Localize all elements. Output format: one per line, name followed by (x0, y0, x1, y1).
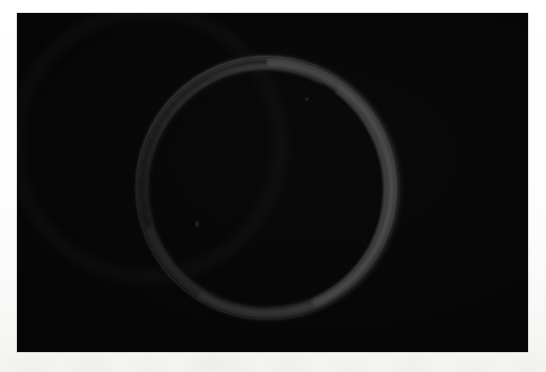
photograph (17, 13, 528, 352)
scan-page (0, 0, 546, 372)
scan-noise-streaks (0, 354, 546, 372)
ring-vector (137, 57, 399, 319)
ring-subject (137, 57, 399, 319)
ring-cross-section-shading (137, 57, 399, 319)
